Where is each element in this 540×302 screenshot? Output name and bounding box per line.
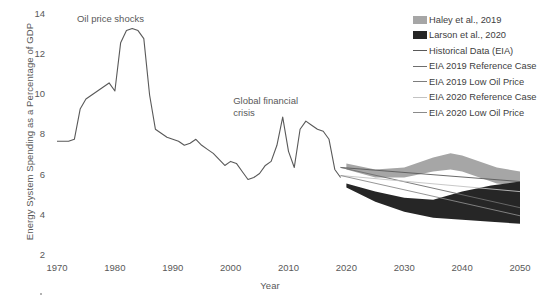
legend-item[interactable]: Larson et al., 2020: [413, 28, 540, 44]
legend-item[interactable]: Haley et al., 2019: [413, 12, 540, 28]
legend-swatch-icon: [413, 16, 427, 24]
legend-item[interactable]: EIA 2019 Reference Case: [413, 59, 540, 75]
legend-item-label: Haley et al., 2019: [429, 15, 501, 25]
series-band: [346, 153, 520, 185]
energy-spending-chart: Energy System Spending as a Percentage o…: [0, 0, 540, 302]
legend-line-icon: [413, 66, 427, 67]
legend-item-label: EIA 2019 Reference Case: [429, 61, 537, 71]
legend-item-label: EIA 2019 Low Oil Price: [429, 77, 524, 87]
legend-line-icon: [413, 50, 427, 51]
legend-item-label: Larson et al., 2020: [429, 30, 506, 40]
legend-item[interactable]: EIA 2019 Low Oil Price: [413, 74, 540, 90]
chart-legend: Haley et al., 2019Larson et al., 2020His…: [413, 12, 540, 121]
legend-item[interactable]: Historical Data (EIA): [413, 43, 540, 59]
legend-item-label: Historical Data (EIA): [429, 46, 513, 56]
series-line: [57, 29, 341, 180]
stray-dot-marker: [40, 293, 42, 295]
legend-item-label: EIA 2020 Low Oil Price: [429, 108, 524, 118]
legend-item[interactable]: EIA 2020 Reference Case: [413, 90, 540, 106]
legend-line-icon: [413, 112, 427, 113]
legend-item-label: EIA 2020 Reference Case: [429, 92, 537, 102]
legend-line-icon: [413, 81, 427, 82]
legend-item[interactable]: EIA 2020 Low Oil Price: [413, 105, 540, 121]
legend-line-icon: [413, 97, 427, 98]
legend-swatch-icon: [413, 31, 427, 39]
